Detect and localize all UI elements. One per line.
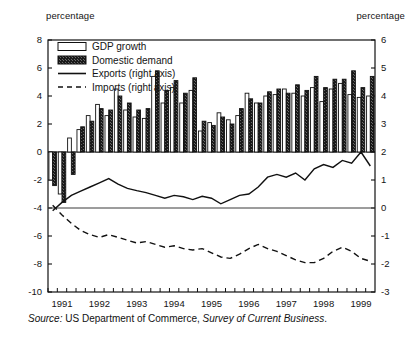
legend-swatch-gdp-growth: [58, 43, 86, 51]
right-axis-ticks: 6543210-1-2-3: [371, 34, 389, 297]
bar-gdp-growth: [68, 138, 72, 152]
source-body: US Department of Commerce,: [62, 313, 202, 324]
x-axis: 199119921993199419951996199719981999: [48, 288, 372, 309]
bar-gdp-growth: [273, 95, 277, 152]
bar-gdp-growth: [283, 89, 287, 152]
legend-swatch-domestic-demand: [58, 56, 86, 64]
svg-text:1998: 1998: [313, 298, 334, 309]
svg-text:4: 4: [37, 90, 42, 101]
legend-label: Imports (right axis): [92, 82, 175, 93]
bar-gdp-growth: [264, 96, 268, 152]
svg-text:1999: 1999: [350, 298, 371, 309]
bar-gdp-growth: [124, 110, 128, 152]
legend-label: Domestic demand: [92, 55, 173, 66]
bar-gdp-growth: [161, 103, 165, 152]
bar-domestic-demand: [268, 92, 272, 152]
line-imports: [53, 205, 371, 262]
bar-domestic-demand: [240, 109, 244, 152]
bar-gdp-growth: [311, 88, 315, 152]
bar-gdp-growth: [49, 152, 53, 180]
bar-gdp-growth: [208, 123, 212, 152]
bar-domestic-demand: [81, 127, 85, 152]
bar-domestic-demand: [146, 109, 150, 152]
bar-domestic-demand: [193, 78, 197, 152]
bar-gdp-growth: [86, 116, 90, 152]
svg-text:1992: 1992: [89, 298, 110, 309]
legend-label: Exports (right axis): [92, 68, 175, 79]
bar-gdp-growth: [367, 96, 371, 152]
bar-gdp-growth: [348, 95, 352, 152]
bar-domestic-demand: [99, 109, 103, 152]
bar-domestic-demand: [333, 79, 337, 152]
bar-gdp-growth: [357, 97, 361, 152]
svg-text:-8: -8: [34, 258, 42, 269]
bar-domestic-demand: [342, 79, 346, 152]
svg-text:0: 0: [381, 202, 386, 213]
bar-domestic-demand: [137, 110, 141, 152]
bar-gdp-growth: [292, 93, 296, 152]
svg-text:1997: 1997: [276, 298, 297, 309]
line-exports: [53, 152, 371, 211]
bar-gdp-growth: [226, 120, 230, 152]
bar-gdp-growth: [105, 116, 109, 152]
source-note: Source: US Department of Commerce, Surve…: [28, 313, 327, 324]
bar-domestic-demand: [109, 110, 113, 152]
bar-domestic-demand: [212, 125, 216, 152]
source-end: .: [324, 313, 327, 324]
bar-domestic-demand: [324, 88, 328, 152]
bar-gdp-growth: [77, 130, 81, 152]
svg-text:0: 0: [37, 146, 42, 157]
bar-gdp-growth: [329, 89, 333, 152]
svg-text:-6: -6: [34, 230, 42, 241]
bar-domestic-demand: [352, 71, 356, 152]
bar-gdp-growth: [339, 83, 343, 152]
svg-text:-3: -3: [381, 286, 389, 297]
bar-gdp-growth: [133, 117, 137, 152]
bar-gdp-growth: [170, 88, 174, 152]
bar-gdp-growth: [142, 118, 146, 152]
svg-text:-2: -2: [381, 258, 389, 269]
bar-domestic-demand: [314, 76, 318, 152]
bar-gdp-growth: [320, 102, 324, 152]
bar-gdp-growth: [96, 104, 100, 152]
bar-domestic-demand: [127, 103, 131, 152]
bar-domestic-demand: [165, 90, 169, 152]
bar-domestic-demand: [305, 90, 309, 152]
svg-text:-1: -1: [381, 230, 389, 241]
svg-text:3: 3: [381, 118, 386, 129]
bar-gdp-growth: [236, 116, 240, 152]
svg-text:5: 5: [381, 62, 386, 73]
svg-text:-4: -4: [34, 202, 42, 213]
svg-text:-2: -2: [34, 174, 42, 185]
bar-domestic-demand: [90, 121, 94, 152]
bar-gdp-growth: [189, 90, 193, 152]
source-label: Source:: [28, 313, 62, 324]
bar-domestic-demand: [202, 121, 206, 152]
bar-domestic-demand: [183, 93, 187, 152]
bar-gdp-growth: [58, 152, 62, 194]
bar-domestic-demand: [71, 152, 75, 174]
bar-domestic-demand: [370, 76, 374, 152]
svg-text:1993: 1993: [126, 298, 147, 309]
svg-text:8: 8: [37, 34, 42, 45]
svg-text:1994: 1994: [164, 298, 185, 309]
bar-gdp-growth: [245, 93, 249, 152]
chart-legend: GDP growthDomestic demandExports (right …: [58, 41, 175, 93]
svg-text:2: 2: [381, 146, 386, 157]
svg-text:6: 6: [37, 62, 42, 73]
bar-domestic-demand: [258, 103, 262, 152]
bar-domestic-demand: [53, 152, 57, 186]
lines-layer: [53, 152, 371, 263]
svg-text:6: 6: [381, 34, 386, 45]
economic-indicators-chart: 86420-2-4-6-8-10 6543210-1-2-3 199119921…: [0, 0, 416, 338]
bar-domestic-demand: [249, 99, 253, 152]
bar-domestic-demand: [62, 152, 66, 202]
zero-reference-line: [48, 152, 375, 208]
bar-domestic-demand: [118, 96, 122, 152]
bar-domestic-demand: [286, 93, 290, 152]
svg-text:2: 2: [37, 118, 42, 129]
bar-gdp-growth: [114, 89, 118, 152]
svg-text:1: 1: [381, 174, 386, 185]
bar-domestic-demand: [361, 88, 365, 152]
source-publication: Survey of Current Business: [203, 313, 325, 324]
